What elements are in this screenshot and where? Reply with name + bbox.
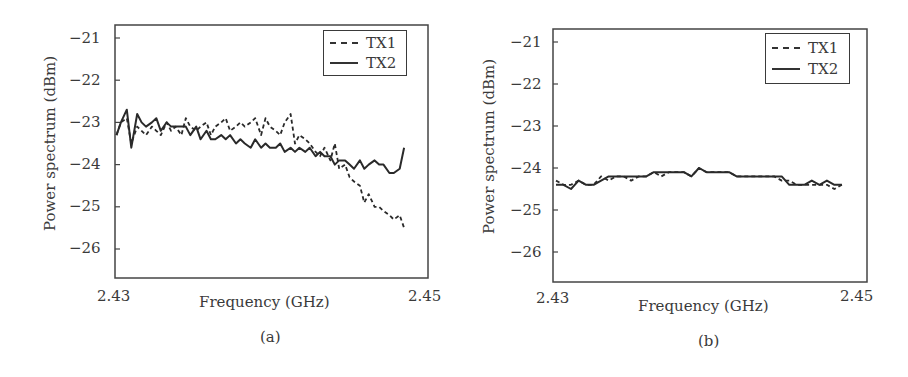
y-tick-label: −25 [69,197,101,215]
legend-item-tx1: TX1 [324,33,396,53]
legend-b: TX1 TX2 [765,33,850,84]
y-tick-label: −21 [69,29,101,47]
legend-item-tx2: TX2 [324,53,396,73]
y-tick-label: −24 [510,159,542,177]
y-tick-label: −23 [69,113,101,131]
chart-panel-b: Power spectrum (dBm) −21 −22 −23 −24 −25… [454,0,908,377]
legend-item-tx2: TX2 [766,59,838,79]
legend-item-tx1: TX1 [766,38,838,58]
y-tick-label: −26 [510,243,542,261]
y-tick-label: −25 [510,201,542,219]
legend-a: TX1 TX2 [323,30,407,76]
y-tick-label: −22 [510,75,542,93]
caption-a: (a) [260,328,281,346]
x-axis-label-b: Frequency (GHz) [638,297,769,315]
x-axis-label-a: Frequency (GHz) [199,293,330,311]
y-tick-label: −23 [510,117,542,135]
x-tick-label: 2.43 [97,287,130,305]
series-line-tx2 [117,110,405,173]
dashed-line-icon [772,47,800,49]
series-line-tx1 [117,114,405,228]
caption-b: (b) [698,332,719,350]
series-line-tx1 [556,168,842,189]
chart-panel-a: Power spectrum (dBm) −21 −22 −23 −24 −25… [0,0,454,377]
solid-line-icon [772,68,800,70]
x-tick-label: 2.45 [840,287,873,305]
dashed-line-icon [330,42,358,44]
y-tick-label: −26 [69,239,101,257]
y-axis-label-a: Power spectrum (dBm) [41,71,59,231]
y-axis-label-b: Power spectrum (dBm) [480,74,498,234]
x-tick-label: 2.43 [536,289,569,307]
y-tick-label: −24 [69,155,101,173]
x-tick-label: 2.45 [408,287,441,305]
y-tick-label: −22 [69,71,101,89]
solid-line-icon [330,62,358,64]
y-tick-label: −21 [510,33,542,51]
